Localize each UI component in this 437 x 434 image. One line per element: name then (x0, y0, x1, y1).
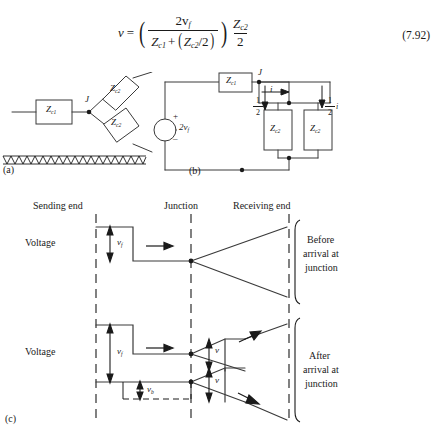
right-fraction: Zc2 2 (230, 17, 251, 48)
waveform-bottom-wedges (191, 324, 287, 420)
label-c-voltage-top: Voltage (25, 237, 55, 248)
label-b-half-current-left: 1 2 i (252, 96, 266, 117)
label-a-zc1: Zc1 (46, 104, 56, 115)
half-fraction-right: 1 2 (325, 96, 335, 117)
line-a-lower-in (89, 112, 104, 124)
label-c-v-lower: v (215, 375, 219, 385)
equation-lhs: v (118, 26, 124, 39)
label-c-vf-top: vf (117, 237, 123, 248)
box-a-zc2-upper (103, 76, 139, 110)
direction-arrow-top (146, 243, 173, 250)
ground-hatch-zigzag (3, 156, 146, 164)
denom-close-paren: ) (210, 32, 214, 47)
bracket-bottom (295, 318, 300, 422)
half-fraction-left: 1 2 (253, 96, 263, 117)
label-c-after-line2: arrival at (303, 364, 339, 375)
label-c-before-line2: arrival at (303, 248, 339, 259)
main-fraction: 2vf Zc1+(Zc2/2) (148, 14, 218, 51)
box-a-zc2-lower (104, 108, 139, 142)
label-b-zc2-right: Zc2 (310, 123, 320, 134)
dim-arrow-v-lower (206, 368, 212, 402)
fraction-denominator: Zc1+(Zc2/2) (148, 30, 218, 50)
direction-arrow-bottom-left (146, 345, 173, 352)
label-c-after-line1: After (309, 350, 330, 361)
line-a-lower-out (133, 144, 152, 152)
dim-arrow-vb (137, 381, 143, 400)
right-fraction-numerator: Zc2 (230, 17, 251, 33)
direction-arrow-bottom-up (239, 331, 261, 342)
node-b-bus (287, 101, 291, 105)
half-current-right-sym: i (336, 102, 338, 111)
right-fraction-denominator: 2 (234, 33, 247, 48)
dim-arrow-vf-bottom (107, 324, 113, 383)
panel-tag-c: (c) (5, 413, 16, 424)
label-c-after-line3: junction (305, 378, 338, 389)
right-num-sub: c2 (240, 23, 248, 32)
label-c-vf-bottom: vf (117, 346, 123, 357)
node-b-bottom (240, 168, 244, 172)
label-b-zc1: Zc1 (226, 75, 236, 86)
wave-top-upper-ray (191, 227, 287, 261)
figure-page: v = ( 2vf Zc1+(Zc2/2) ) Zc2 2 (7.92) (0, 0, 437, 434)
label-b-source-minus: – (173, 133, 178, 143)
dim-arrow-vf-top (107, 226, 113, 262)
panel-tag-b: (b) (189, 165, 201, 176)
denom-plus: + (168, 34, 175, 49)
node-c-bottom-junction-upper (189, 352, 194, 357)
label-b-source: 2vf (179, 122, 189, 133)
label-b-current: i (270, 84, 273, 94)
wave-top-lower-ray (191, 261, 287, 297)
label-c-v-upper: v (215, 345, 219, 355)
label-c-before-line3: junction (305, 262, 338, 273)
line-a-upper-out (133, 72, 152, 78)
numerator-subscript: f (188, 20, 190, 29)
wedge-lower-ray (245, 402, 287, 420)
label-c-receiving-end: Receiving end (233, 200, 290, 211)
vb-ticks (123, 382, 191, 399)
half-current-left-sym: i (264, 102, 266, 111)
denom-open-paren: ( (179, 32, 183, 47)
open-paren: ( (139, 20, 145, 44)
label-c-voltage-bottom: Voltage (25, 346, 55, 357)
denom-z2: Z (184, 34, 191, 49)
direction-arrow-bottom-down (238, 393, 259, 404)
equation-equals: = (127, 26, 134, 39)
dashed-reference-lines (96, 214, 289, 424)
close-paren: ) (221, 20, 227, 44)
label-a-zc2-lower: Zc2 (111, 117, 121, 128)
label-a-junction: J (85, 94, 89, 104)
label-b-zc2-left: Zc2 (270, 123, 280, 134)
fraction-numerator: 2vf (172, 14, 193, 30)
numerator-text: 2v (175, 13, 188, 28)
node-b-junction (257, 80, 261, 84)
equation-number: (7.92) (402, 29, 430, 41)
equation-expression: v = ( 2vf Zc1+(Zc2/2) ) Zc2 2 (118, 14, 252, 51)
dim-arrow-v-upper (206, 339, 212, 371)
wedge-lower-bottom (191, 382, 245, 402)
figure-a: Zc1 J Zc2 Zc2 (a) (0, 72, 160, 177)
junction-dot-a (87, 110, 92, 115)
label-c-before-line1: Before (307, 234, 334, 245)
denom-z1-sub: c1 (158, 42, 166, 51)
line-a-upper-in (89, 98, 104, 112)
equation-block: v = ( 2vf Zc1+(Zc2/2) ) Zc2 2 (7.92) (0, 14, 437, 58)
node-c-top-junction (189, 259, 194, 264)
figure-a-canvas (0, 72, 160, 177)
figure-c-canvas (0, 196, 437, 434)
bracket-top (295, 220, 300, 304)
denom-half: /2 (198, 34, 208, 49)
label-a-zc2-upper: Zc2 (110, 83, 120, 94)
label-c-junction: Junction (164, 200, 198, 211)
node-c-bottom-junction-lower (189, 380, 194, 385)
figure-c: Sending end Junction Receiving end Volta… (0, 196, 437, 434)
node-b-return (287, 156, 291, 160)
label-c-vb: vb (147, 384, 154, 395)
panel-tag-a: (a) (3, 164, 14, 175)
figure-b: Zc1 J i 1 2 i 1 2 i Zc2 Zc2 + – 2vf (b) (152, 70, 352, 180)
label-b-junction: J (258, 67, 262, 77)
label-b-half-current-right: 1 2 i (324, 96, 338, 117)
label-b-source-plus: + (173, 111, 178, 121)
label-c-sending-end: Sending end (33, 200, 83, 211)
